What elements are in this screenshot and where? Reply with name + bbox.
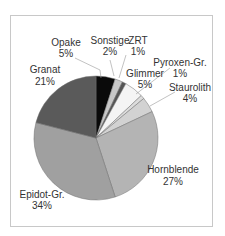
pie-slices [34,76,158,200]
label-glimmer-pct: 5% [138,79,153,90]
label-epidot-pct: 34% [32,200,52,211]
label-staurolith-pct: 4% [183,93,198,104]
label-zrt-pct: 1% [131,46,146,57]
label-pyroxen-name: Pyroxen-Gr. [153,57,206,68]
pie-chart: Opake 5% Sonstige 2% ZRT 1% Glimmer 5% P… [0,0,225,236]
label-sonstige-name: Sonstige [91,35,130,46]
label-epidot-name: Epidot-Gr. [19,189,64,200]
label-opake-pct: 5% [59,48,74,59]
label-hornblende-pct: 27% [163,176,183,187]
label-granat-pct: 21% [35,76,55,87]
label-opake-name: Opake [51,37,81,48]
label-granat-name: Granat [30,64,61,75]
label-pyroxen-pct: 1% [173,68,188,79]
label-hornblende-name: Hornblende [147,164,199,175]
label-sonstige-pct: 2% [103,46,118,57]
label-glimmer-name: Glimmer [126,68,164,79]
label-zrt-name: ZRT [128,35,147,46]
label-staurolith-name: Staurolith [169,82,211,93]
